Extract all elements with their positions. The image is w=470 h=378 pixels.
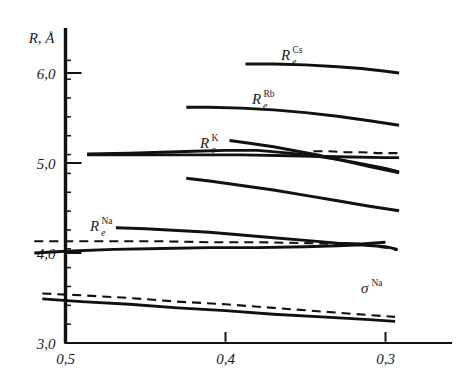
y-axis-tick-label-2: 5,0 (37, 156, 56, 172)
x-axis-tick-label-2: 0,3 (376, 351, 395, 367)
label-Re-Rb-sup: Rb (264, 89, 275, 99)
y-axis-tick-label-3: 6,0 (37, 66, 56, 82)
label-Re-K-base: R (199, 135, 209, 151)
chart-background (0, 0, 470, 378)
label-sigma-Na-base: σ (361, 280, 369, 296)
y-axis-title: R, Å (28, 30, 56, 46)
x-axis-tick-label-1: 0,4 (216, 351, 235, 367)
label-Re-Na-base: R (89, 218, 99, 234)
y-axis-tick-label-1: 4,0 (37, 246, 56, 262)
label-Re-Cs-sup: Cs (293, 45, 303, 55)
label-Re-Cs-base: R (280, 47, 290, 63)
label-Re-Rb-base: R (251, 91, 261, 107)
y-axis-tick-label-0: 3,0 (36, 336, 56, 352)
chart-figure: 3,04,05,06,00,50,40,3R, Å ReCsReRbReKReN… (0, 0, 470, 378)
label-Re-K-sup: K (212, 133, 219, 143)
label-Re-Na-sub: e (101, 227, 106, 238)
chart-svg: 3,04,05,06,00,50,40,3R, Å ReCsReRbReKReN… (0, 0, 470, 378)
label-Re-Rb-sub: e (263, 100, 268, 111)
label-Re-Na-sup: Na (102, 216, 114, 226)
label-sigma-Na-sup: Na (372, 278, 384, 288)
label-Re-Cs-sub: e (292, 56, 297, 67)
label-Re-K-sub: e (211, 144, 216, 155)
x-axis-tick-label-0: 0,5 (56, 351, 75, 367)
